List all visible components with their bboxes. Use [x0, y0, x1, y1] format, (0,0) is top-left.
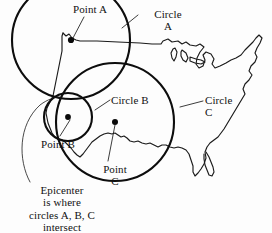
epicenter-triangulation-diagram: Point A CircleA Circle B CircleC Point B…: [0, 0, 272, 233]
label-circle-b: Circle B: [111, 94, 173, 106]
label-circle-c-line1: Circle: [205, 94, 232, 106]
epicenter-note-line3: circles A, B, C: [29, 209, 95, 221]
point-b-leader-line: [60, 120, 70, 136]
label-circle-c-line2: C: [205, 106, 212, 118]
label-circle-a: CircleA: [140, 8, 196, 32]
epicenter-note-line2: is where: [43, 196, 81, 208]
epicenter-note-line4: intersect: [43, 221, 81, 233]
label-point-b: Point B: [27, 138, 89, 150]
epicenter-note-line1: Epicenter: [40, 184, 83, 196]
point-a-leader-line: [73, 17, 84, 38]
point-c-leader-line: [108, 125, 115, 161]
circle-b-leader-line: [95, 100, 110, 110]
label-circle-c: CircleC: [205, 94, 257, 118]
label-point-a: Point A: [60, 3, 120, 15]
point-c-dot: [112, 119, 118, 125]
label-point-c-line1: Point: [103, 163, 127, 175]
label-circle-a-line1: Circle: [154, 8, 181, 20]
label-circle-a-line2: A: [164, 20, 172, 32]
circle-c-leader-line: [180, 101, 203, 107]
label-epicenter-note: Epicenteris wherecircles A, B, Cintersec…: [4, 184, 120, 233]
point-b-dot: [65, 114, 71, 120]
